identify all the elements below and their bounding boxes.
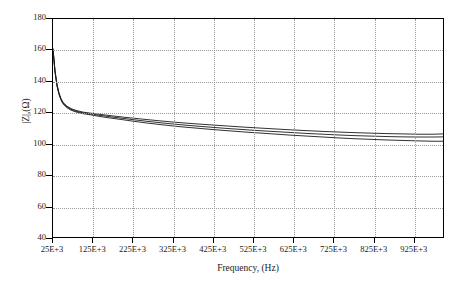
y-tick-label: 160 bbox=[0, 44, 46, 53]
gridline-vertical bbox=[254, 19, 255, 237]
y-tick-label: 180 bbox=[0, 13, 46, 22]
impedance-curve-middle bbox=[53, 49, 443, 137]
x-tick-mark bbox=[213, 238, 214, 243]
y-tick-label: 80 bbox=[0, 170, 46, 179]
series-lines bbox=[53, 19, 443, 237]
gridline-vertical bbox=[334, 19, 335, 237]
x-tick-mark bbox=[173, 238, 174, 243]
x-tick-mark bbox=[92, 238, 93, 243]
x-tick-mark bbox=[293, 238, 294, 243]
gridline-vertical bbox=[415, 19, 416, 237]
y-tick-mark bbox=[46, 207, 52, 208]
impedance-curve-upper bbox=[53, 49, 443, 135]
y-tick-label: 40 bbox=[0, 233, 46, 242]
impedance-chart: 406080100120140160180 25E+3125E+3225E+33… bbox=[0, 0, 466, 286]
gridline-vertical bbox=[375, 19, 376, 237]
y-tick-mark bbox=[46, 144, 52, 145]
gridline-vertical bbox=[133, 19, 134, 237]
x-tick-mark bbox=[374, 238, 375, 243]
gridline-horizontal bbox=[53, 82, 443, 83]
y-tick-mark bbox=[46, 81, 52, 82]
x-axis-label: Frequency, (Hz) bbox=[52, 263, 444, 273]
x-tick-mark bbox=[253, 238, 254, 243]
gridline-vertical bbox=[93, 19, 94, 237]
gridline-vertical bbox=[294, 19, 295, 237]
gridline-horizontal bbox=[53, 208, 443, 209]
gridline-horizontal bbox=[53, 145, 443, 146]
x-tick-mark bbox=[414, 238, 415, 243]
gridline-vertical bbox=[174, 19, 175, 237]
y-tick-mark bbox=[46, 112, 52, 113]
x-tick-mark bbox=[132, 238, 133, 243]
gridline-vertical bbox=[214, 19, 215, 237]
y-tick-label: 60 bbox=[0, 202, 46, 211]
x-tick-mark bbox=[333, 238, 334, 243]
gridline-horizontal bbox=[53, 176, 443, 177]
x-tick-mark bbox=[52, 238, 53, 243]
gridline-horizontal bbox=[53, 113, 443, 114]
y-axis-label: |Z|,(Ω) bbox=[21, 71, 31, 151]
plot-area bbox=[52, 18, 444, 238]
gridline-horizontal bbox=[53, 50, 443, 51]
x-tick-label: 925E+3 bbox=[384, 245, 444, 254]
y-tick-mark bbox=[46, 175, 52, 176]
y-tick-mark bbox=[46, 49, 52, 50]
y-tick-mark bbox=[46, 18, 52, 19]
